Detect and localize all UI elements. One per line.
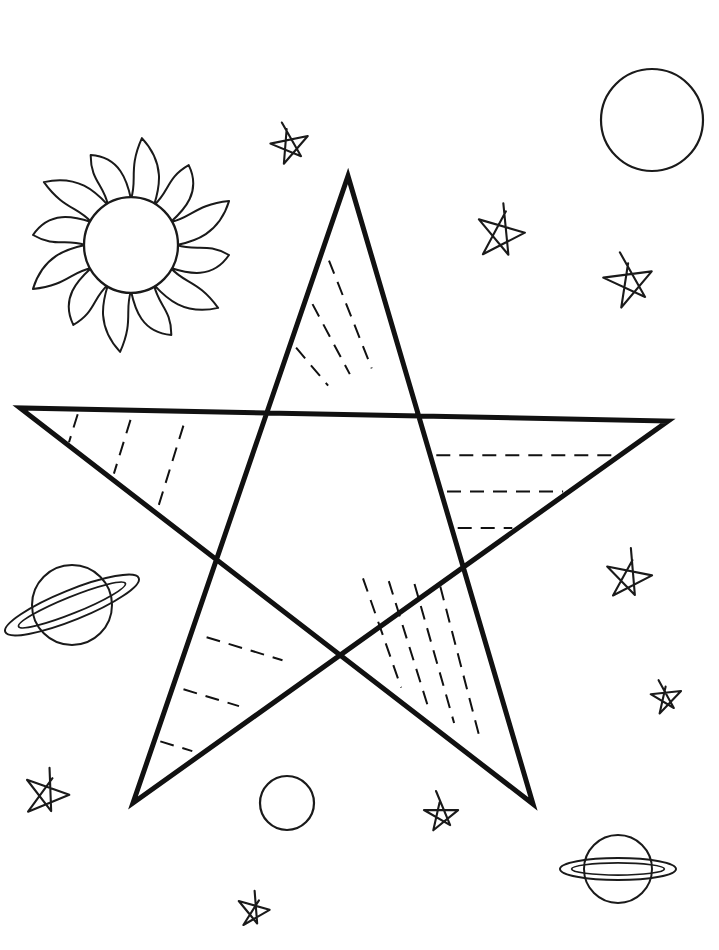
moon-bottom-center-icon <box>260 776 314 830</box>
moon-top-right-icon <box>601 69 703 171</box>
artwork-canvas <box>0 0 719 950</box>
coloring-page: STAR MAPS <box>0 0 719 950</box>
planet-body <box>584 835 652 903</box>
sun-core <box>84 197 178 293</box>
planet-body <box>32 565 112 645</box>
